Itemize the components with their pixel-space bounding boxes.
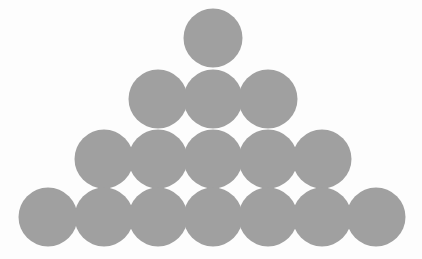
circle-r3-c1: [75, 130, 134, 189]
circle-r4-c5: [239, 188, 298, 247]
circle-r4-c3: [129, 188, 188, 247]
circle-r4-c1: [19, 188, 78, 247]
circle-r3-c3: [184, 130, 243, 189]
circle-r2-c1: [129, 70, 188, 129]
circle-r1-c1: [184, 9, 243, 68]
circle-pyramid-figure: [0, 0, 422, 259]
circle-r3-c4: [239, 130, 298, 189]
circle-row-3: [75, 130, 352, 189]
circle-r4-c4: [184, 188, 243, 247]
circle-r4-c2: [75, 188, 134, 247]
circle-pyramid-canvas: [0, 0, 422, 259]
circle-r4-c7: [347, 188, 406, 247]
circle-r4-c6: [293, 188, 352, 247]
circle-r2-c3: [239, 70, 298, 129]
circle-row-1: [184, 9, 243, 68]
circle-row-2: [129, 70, 298, 129]
circle-r2-c2: [184, 70, 243, 129]
circle-r3-c5: [293, 130, 352, 189]
circle-r3-c2: [129, 130, 188, 189]
